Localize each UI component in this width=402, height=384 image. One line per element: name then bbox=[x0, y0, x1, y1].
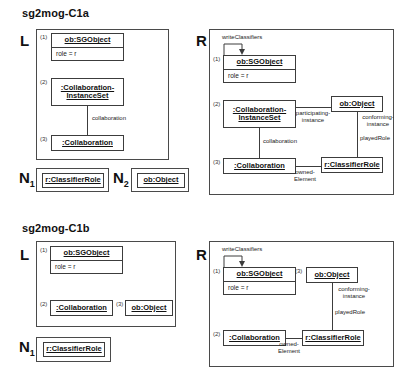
edge-label-line2: Element bbox=[294, 176, 316, 182]
edge-label-line1: participating- bbox=[296, 110, 330, 116]
object-node-ob-object: ob:Object bbox=[137, 173, 185, 188]
node-index-2: (2) bbox=[40, 79, 47, 85]
rhs-panel-c1a: writeClassifiers (1) ob:SGObject role = … bbox=[209, 29, 394, 195]
n1-letter-c1b: N1 bbox=[19, 339, 35, 358]
n2-letter-c1a: N2 bbox=[113, 170, 129, 189]
edge-participating-instance-line bbox=[296, 107, 331, 108]
node-name-cell: :Collaboration bbox=[52, 136, 123, 150]
n2-panel-c1a: ob:Object bbox=[131, 168, 189, 192]
node-name: ob:Object bbox=[340, 100, 375, 109]
edge-label-line2: instance bbox=[302, 117, 324, 123]
node-attribute: role = r bbox=[228, 284, 248, 292]
rule-title-c1a: sg2mog-C1a bbox=[22, 7, 89, 19]
edge-label-playedrole: playedRole bbox=[335, 309, 365, 316]
edge-label-collaboration: collaboration bbox=[263, 138, 297, 145]
object-node-ob-sgobject: ob:SGObject role = r bbox=[51, 33, 124, 61]
edge-label-line1: owned- bbox=[295, 169, 315, 175]
node-index-1: (1) bbox=[213, 56, 220, 62]
object-node-collaboration-instanceset: :Collaboration- InstanceSet bbox=[51, 78, 124, 106]
node-index-3: (3) bbox=[40, 136, 47, 142]
node-index-2: (2) bbox=[213, 101, 220, 107]
node-name: ob:Object bbox=[132, 304, 167, 313]
node-name: :Collaboration bbox=[234, 162, 285, 171]
rhs-letter-c1a: R bbox=[196, 33, 207, 48]
edge-conforming-instance-line bbox=[357, 112, 358, 157]
edge-conforming-instance-line bbox=[332, 283, 333, 330]
node-name-cell: ob:Object bbox=[138, 174, 184, 187]
node-index-2: (2) bbox=[40, 301, 47, 307]
node-attribute-cell: role = r bbox=[52, 48, 123, 60]
node-attribute-cell: role = r bbox=[51, 261, 122, 273]
edge-label-writeclassifiers: writeClassifiers bbox=[222, 246, 262, 253]
object-node-collaboration: :Collaboration bbox=[51, 135, 124, 151]
edge-label-playedrole: playedRole bbox=[360, 135, 390, 142]
edge-owned-element-line bbox=[286, 338, 302, 339]
object-node-ob-sgobject: ob:SGObject role = r bbox=[223, 267, 296, 295]
node-name: :Collaboration bbox=[62, 139, 113, 148]
edge-label-owned-element: owned- Element bbox=[288, 169, 322, 183]
node-name-cell: :Collaboration- InstanceSet bbox=[224, 101, 295, 127]
node-name-cell: :Collaboration bbox=[224, 159, 295, 173]
object-node-collaboration-instanceset: :Collaboration- InstanceSet bbox=[223, 100, 296, 128]
node-attribute: role = r bbox=[228, 72, 248, 80]
n-letter: N bbox=[113, 169, 124, 186]
node-name-cell: ob:Object bbox=[332, 97, 382, 111]
object-node-collaboration: :Collaboration bbox=[50, 300, 113, 316]
node-attribute: role = r bbox=[56, 50, 76, 58]
node-name-line2: InstanceSet bbox=[238, 114, 280, 123]
edge-collaboration-line bbox=[259, 128, 260, 158]
node-name-cell: ob:Object bbox=[307, 268, 357, 282]
edge-label-line1: conforming- bbox=[362, 114, 394, 120]
node-name: r:ClassifierRole bbox=[324, 161, 379, 170]
node-name-cell: ob:Object bbox=[126, 301, 172, 315]
object-node-r-classifierrole: r:ClassifierRole bbox=[42, 173, 104, 188]
edge-label-line2: instance bbox=[343, 293, 365, 299]
edge-label-line2: instance bbox=[367, 121, 389, 127]
diagram-canvas: sg2mog-C1a L (1) ob:SGObject role = r (2… bbox=[0, 0, 402, 384]
node-name-cell: :Collaboration bbox=[51, 301, 112, 315]
node-name-cell: r:ClassifierRole bbox=[322, 158, 382, 172]
rule-title-c1b: sg2mog-C1b bbox=[22, 222, 90, 234]
lhs-panel-c1b: (1) ob:SGObject role = r (2) :Collaborat… bbox=[36, 241, 176, 327]
edge-label-line1: owned- bbox=[279, 341, 299, 347]
node-name: ob:SGObject bbox=[64, 249, 110, 258]
n-letter: N bbox=[19, 338, 30, 355]
node-name-cell: ob:SGObject bbox=[51, 247, 122, 261]
node-index-1: (1) bbox=[40, 34, 47, 40]
lhs-letter-c1b: L bbox=[20, 247, 29, 262]
object-node-r-classifierrole: r:ClassifierRole bbox=[302, 330, 364, 346]
node-index-1: (1) bbox=[213, 268, 220, 274]
object-node-r-classifierrole: r:ClassifierRole bbox=[43, 342, 105, 357]
node-name-line2: InstanceSet bbox=[66, 92, 108, 101]
node-index-2: (2) bbox=[213, 331, 220, 337]
lhs-panel-c1a: (1) ob:SGObject role = r (2) :Collaborat… bbox=[36, 29, 169, 160]
node-name: ob:SGObject bbox=[237, 270, 283, 279]
node-name: r:ClassifierRole bbox=[45, 176, 100, 185]
node-index-3: (3) bbox=[116, 301, 123, 307]
node-index-3: (3) bbox=[213, 159, 220, 165]
edge-label-writeclassifiers: writeClassifiers bbox=[222, 34, 262, 41]
node-index-3: (3) bbox=[295, 268, 302, 274]
edge-label-conforming-instance: conforming- instance bbox=[360, 114, 396, 128]
edge-label-conforming-instance: conforming- instance bbox=[335, 286, 373, 300]
node-name-cell: ob:SGObject bbox=[52, 34, 123, 48]
node-name: ob:SGObject bbox=[237, 58, 283, 67]
n1-letter-c1a: N1 bbox=[19, 170, 35, 189]
n-subscript: 2 bbox=[124, 179, 129, 189]
node-attribute-cell: role = r bbox=[224, 70, 295, 82]
node-name-cell: ob:SGObject bbox=[224, 56, 295, 70]
node-name: ob:Object bbox=[144, 176, 179, 185]
node-name: r:ClassifierRole bbox=[305, 334, 360, 343]
object-node-ob-sgobject: ob:SGObject role = r bbox=[50, 246, 123, 274]
node-name-cell: r:ClassifierRole bbox=[303, 331, 363, 345]
edge-owned-element-line bbox=[296, 166, 321, 167]
rhs-panel-c1b: writeClassifiers (1) ob:SGObject role = … bbox=[209, 241, 394, 367]
edge-collaboration-line bbox=[87, 106, 88, 135]
edge-label-line2: Element bbox=[278, 348, 300, 354]
object-node-collaboration: :Collaboration bbox=[223, 158, 296, 174]
node-name: ob:Object bbox=[315, 271, 350, 280]
n-subscript: 1 bbox=[30, 348, 35, 358]
node-name: :Collaboration bbox=[56, 304, 107, 313]
node-name: ob:SGObject bbox=[65, 36, 111, 45]
n1-panel-c1b: r:ClassifierRole bbox=[36, 337, 111, 362]
